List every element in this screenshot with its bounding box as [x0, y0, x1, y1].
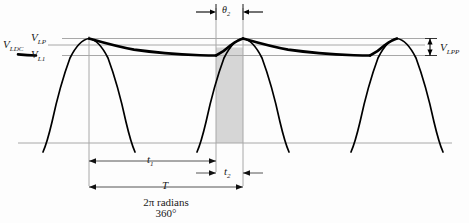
label-v-min: VL1	[31, 49, 45, 63]
label-v-dc: VLDC	[3, 39, 23, 53]
waveform-figure: VLP VLDC VL1 VLPP θ2 t1 t2 T 2π radians …	[0, 0, 469, 223]
label-theta: θ2	[222, 5, 230, 17]
label-v-pp: VLPP	[440, 42, 459, 56]
vpp-dimension	[425, 39, 437, 56]
shaded-conduction-region	[216, 48, 243, 144]
label-period: T	[162, 180, 168, 191]
waveform-plot	[0, 0, 469, 223]
label-degrees: 360°	[126, 207, 206, 219]
label-v-peak: VLP	[31, 32, 46, 46]
label-t1: t1	[147, 154, 154, 168]
label-t2: t2	[224, 166, 231, 180]
discharge-curve-2	[243, 39, 370, 56]
recharge-curve-2	[370, 39, 397, 56]
discharge-curve-1	[89, 39, 216, 56]
